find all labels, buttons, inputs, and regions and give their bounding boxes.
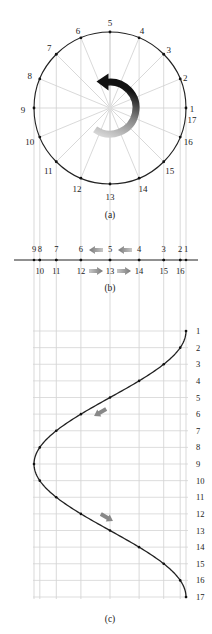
projection-line-b: 12345678910111213141516 <box>14 244 198 276</box>
circle-point-label: 10 <box>25 137 35 147</box>
axis-top-label: 6 <box>79 244 83 254</box>
row-label: 5 <box>196 393 200 403</box>
axis-bottom-label: 16 <box>176 266 185 276</box>
curve-point <box>38 446 41 449</box>
down-right-arrow-icon <box>99 511 115 525</box>
circle-point-label: 12 <box>72 184 81 194</box>
circle-point <box>80 177 83 180</box>
row-label: 11 <box>196 492 204 502</box>
circle-point <box>138 177 141 180</box>
axis-bottom-label: 14 <box>135 266 144 276</box>
axis-point <box>80 259 83 262</box>
axis-point <box>38 259 41 262</box>
circle-point <box>138 36 141 39</box>
curve-point <box>80 413 83 416</box>
axis-bottom-label: 13 <box>106 266 115 276</box>
axis-top-label: 8 <box>38 244 42 254</box>
curve-point <box>109 396 112 399</box>
axis-point <box>162 259 165 262</box>
row-label: 12 <box>196 509 205 519</box>
circle-point <box>55 53 58 56</box>
down-left-arrow-icon <box>92 406 108 420</box>
circle-center <box>108 106 113 111</box>
circle-point-label: 5 <box>108 18 113 28</box>
left-arrow-icon <box>89 246 103 254</box>
sinusoid-grid-c: 1234567891011121314151617 <box>33 326 206 602</box>
axis-bottom-label: 11 <box>52 266 60 276</box>
circle-point-label: 13 <box>106 192 116 202</box>
circle-point-label: 8 <box>28 71 33 81</box>
circle-point-label: 7 <box>47 43 52 53</box>
axis-top-label: 3 <box>162 244 166 254</box>
circle-point-label: 17 <box>188 115 198 125</box>
curve-point <box>138 380 141 383</box>
circle-point-label: 4 <box>140 26 145 36</box>
row-label: 6 <box>196 409 200 419</box>
row-label: 7 <box>196 426 200 436</box>
circle-point <box>80 36 83 39</box>
circle-point-label: 14 <box>139 184 149 194</box>
circle-point-label: 11 <box>44 166 53 176</box>
unit-circle: 1234567891011121314151617 <box>21 18 197 202</box>
right-arrow-icon <box>89 267 103 275</box>
row-label: 3 <box>196 359 200 369</box>
row-label: 14 <box>196 542 205 552</box>
row-label: 16 <box>196 575 205 585</box>
row-label: 4 <box>196 376 201 386</box>
curve-point <box>138 546 141 549</box>
curve-point <box>80 513 83 516</box>
curve-point <box>162 363 165 366</box>
right-arrow-icon <box>117 267 131 275</box>
curve-point <box>55 429 58 432</box>
axis-bottom-label: 12 <box>77 266 86 276</box>
circle-point <box>109 31 112 34</box>
caption-a: (a) <box>105 210 116 221</box>
circle-point <box>162 53 165 56</box>
circle-point-label: 15 <box>165 166 175 176</box>
axis-point <box>138 259 141 262</box>
axis-point <box>109 259 112 262</box>
curve-point <box>33 463 36 466</box>
circle-point-label: 1 <box>190 104 195 114</box>
curve-point <box>185 330 188 333</box>
row-label: 15 <box>196 559 205 569</box>
rotation-arrowhead-icon <box>96 73 108 90</box>
circle-point-label: 9 <box>21 105 26 115</box>
circle-point-label: 16 <box>184 137 194 147</box>
projection-diagram: 1234567891011121314151617 12345678910111… <box>0 0 212 634</box>
axis-bottom-label: 15 <box>159 266 168 276</box>
circle-point-label: 2 <box>183 73 188 83</box>
row-label: 10 <box>196 476 205 486</box>
axis-top-label: 2 <box>178 244 182 254</box>
circle-point <box>38 78 41 81</box>
circle-point <box>38 136 41 139</box>
curve-point <box>55 496 58 499</box>
row-label: 1 <box>196 326 200 336</box>
row-label: 9 <box>196 459 200 469</box>
axis-top-label: 7 <box>54 244 58 254</box>
curve-point <box>109 529 112 532</box>
circle-point <box>162 160 165 163</box>
axis-point <box>185 259 188 262</box>
circle-point-label: 6 <box>76 26 81 36</box>
caption-b: (b) <box>104 283 115 294</box>
caption-c: (c) <box>105 614 116 625</box>
row-label: 2 <box>196 343 200 353</box>
circle-point <box>179 136 182 139</box>
axis-point <box>179 259 182 262</box>
circle-point <box>179 78 182 81</box>
curve-point <box>179 579 182 582</box>
left-arrow-icon <box>118 246 132 254</box>
axis-top-label: 4 <box>137 244 142 254</box>
axis-point <box>55 259 58 262</box>
axis-point <box>33 259 36 262</box>
axis-top-label: 1 <box>184 244 188 254</box>
row-label: 17 <box>196 592 205 602</box>
row-label: 13 <box>196 526 205 536</box>
axis-bottom-label: 10 <box>36 266 45 276</box>
circle-point-label: 3 <box>166 45 171 55</box>
circle-point <box>55 160 58 163</box>
curve-point <box>185 596 188 599</box>
curve-point <box>162 562 165 565</box>
axis-top-label: 9 <box>32 244 36 254</box>
